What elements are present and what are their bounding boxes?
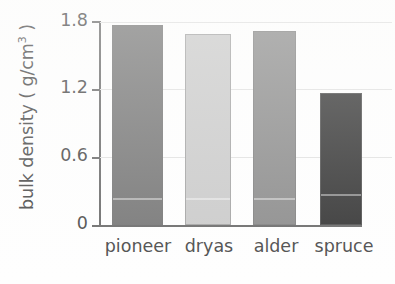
x-axis-tick-labels: pioneer dryas alder spruce [100, 236, 362, 266]
y-tick-label-0: 0 [32, 215, 88, 233]
bar-scanline-artifact [186, 198, 230, 200]
y-axis-title-exponent: 3 [16, 36, 29, 43]
bar-scanline-artifact [254, 198, 295, 200]
bar-scanline-artifact [113, 198, 162, 200]
bar-dryas [185, 34, 231, 225]
y-tick-label-1-2: 1.2 [32, 79, 88, 97]
bar-pioneer [112, 25, 163, 225]
y-axis-tick-labels: 1.8 1.2 0.6 0 [30, 0, 88, 284]
y-tick-label-1-8: 1.8 [32, 12, 88, 30]
gridline-1-8 [100, 22, 392, 23]
x-axis-line [99, 225, 362, 227]
plot-area [100, 22, 362, 225]
x-tick-label-alder: alder [241, 236, 311, 256]
bar-spruce [320, 93, 362, 225]
y-tick-label-0-6: 0.6 [32, 147, 88, 165]
bar-scanline-artifact [321, 194, 361, 196]
bar-chart-figure: bulk density ( g/cm3 ) 1.8 1.2 0.6 0 [0, 0, 395, 284]
bar-alder [253, 31, 296, 225]
x-tick-label-dryas: dryas [170, 236, 248, 256]
x-tick-label-spruce: spruce [305, 236, 383, 256]
